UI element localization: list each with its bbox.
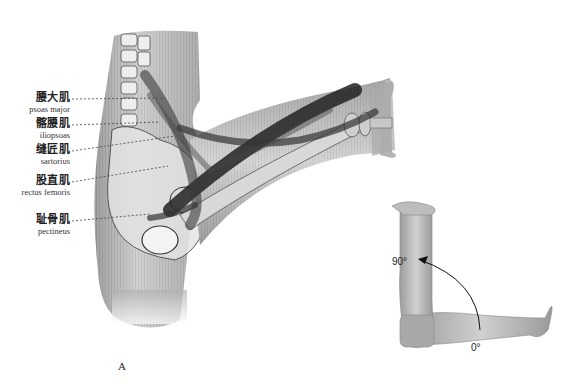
label-iliopsoas: 髂腰肌 iliopsoas <box>2 118 70 140</box>
label-pectineus: 耻骨肌 pectineus <box>2 214 70 236</box>
angle-0-label: 0° <box>471 342 481 353</box>
panel-label: A <box>118 360 126 372</box>
label-zh: 股直肌 <box>2 175 70 187</box>
anatomy-illustration <box>0 0 579 384</box>
label-sartorius: 缝匠肌 sartorius <box>2 144 70 166</box>
label-en: rectus femoris <box>2 187 70 197</box>
label-rectus-femoris: 股直肌 rectus femoris <box>2 175 70 197</box>
label-psoas-major: 腰大肌 psoas major <box>2 92 70 114</box>
angle-90-label: 90° <box>392 256 407 267</box>
label-en: iliopsoas <box>2 130 70 140</box>
label-en: psoas major <box>2 104 70 114</box>
label-zh: 耻骨肌 <box>2 214 70 226</box>
range-of-motion-figure <box>392 202 552 348</box>
label-zh: 缝匠肌 <box>2 144 70 156</box>
label-zh: 髂腰肌 <box>2 118 70 130</box>
label-en: pectineus <box>2 226 70 236</box>
label-zh: 腰大肌 <box>2 92 70 104</box>
label-en: sartorius <box>2 156 70 166</box>
thigh <box>180 78 396 245</box>
